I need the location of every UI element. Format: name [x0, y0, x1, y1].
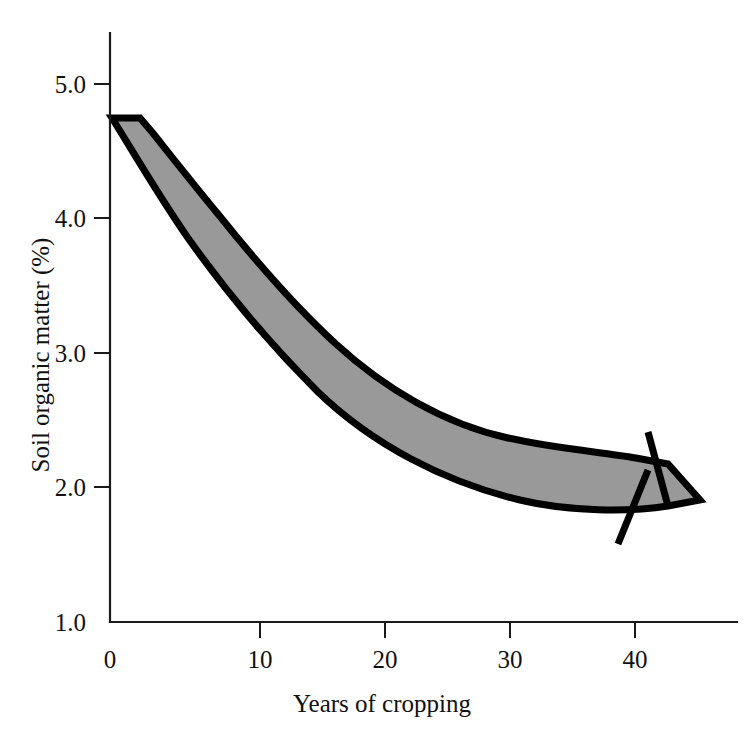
x-tick-label-40: 40	[623, 646, 648, 673]
soil-organic-matter-band	[112, 118, 700, 510]
chart-figure: 5.0 4.0 3.0 2.0 1.0 0 10 20 30 40 Years …	[0, 0, 750, 731]
x-tick-label-30: 30	[498, 646, 523, 673]
x-axis-title: Years of cropping	[293, 690, 471, 717]
x-tick-label-0: 0	[104, 646, 117, 673]
y-tick-label-4: 4.0	[55, 205, 86, 232]
chart-plot-area: 5.0 4.0 3.0 2.0 1.0 0 10 20 30 40 Years …	[0, 0, 750, 731]
y-axis-title: Soil organic matter (%)	[27, 238, 55, 473]
y-tick-label-1: 1.0	[55, 609, 86, 636]
x-axis-ticks	[260, 622, 635, 638]
y-tick-label-5: 5.0	[55, 71, 86, 98]
y-tick-label-3: 3.0	[55, 340, 86, 367]
x-tick-label-10: 10	[248, 646, 273, 673]
x-tick-label-20: 20	[373, 646, 398, 673]
y-tick-label-2: 2.0	[55, 474, 86, 501]
data-band-group	[112, 118, 700, 544]
y-axis-ticks	[94, 84, 110, 487]
